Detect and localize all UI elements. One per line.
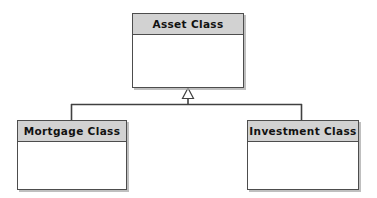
class-box-mortgage[interactable]: Mortgage Class: [17, 120, 127, 190]
uml-class-diagram: Asset Class Mortgage Class Investment Cl…: [0, 0, 377, 198]
class-attributes-compartment-investment: [248, 142, 358, 189]
class-attributes-compartment-asset: [133, 35, 243, 87]
class-name-investment: Investment Class: [248, 121, 358, 142]
class-name-asset: Asset Class: [133, 14, 243, 35]
inheritance-triangle-icon: [183, 88, 194, 99]
class-name-mortgage: Mortgage Class: [18, 121, 126, 142]
class-box-investment[interactable]: Investment Class: [247, 120, 359, 190]
class-attributes-compartment-mortgage: [18, 142, 126, 189]
class-box-asset[interactable]: Asset Class: [132, 13, 244, 88]
